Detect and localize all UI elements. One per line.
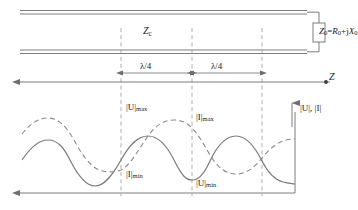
current-minimum-label: |I|min xyxy=(126,170,143,180)
reference-point-dot xyxy=(324,80,328,84)
current-maximum-label: |I|max xyxy=(196,113,214,123)
characteristic-impedance-label: Zc xyxy=(143,26,152,38)
load-impedance-label: Z0=R0+jX0 xyxy=(319,27,357,37)
dimension-label-quarter-wave-2: λ/4 xyxy=(211,62,222,71)
dimension-label-quarter-wave-1: λ/4 xyxy=(140,62,151,71)
voltage-magnitude-curve xyxy=(22,136,295,186)
transmission-line-conductors xyxy=(20,11,307,54)
voltage-minimum-label: |U|min xyxy=(196,179,216,189)
transmission-line-standing-wave-figure: Zc Z0=R0+jX0 λ/4 λ/4 Z |U|max |I|max |I|… xyxy=(0,0,358,210)
voltage-maximum-label: |U|max xyxy=(126,103,147,113)
current-magnitude-curve xyxy=(22,118,295,174)
distance-axis-label: Z xyxy=(329,72,335,82)
vertical-axis-label: |U|, |I| xyxy=(300,104,321,113)
